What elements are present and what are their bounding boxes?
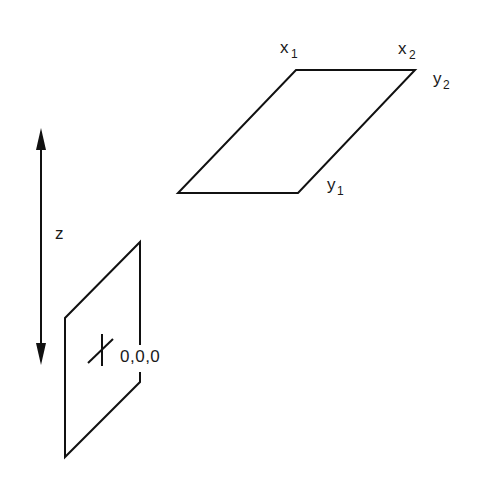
label-x2-base: x (398, 39, 407, 58)
label-y1-sub: 1 (337, 184, 344, 198)
z-axis-arrowhead-bottom-icon (36, 343, 46, 365)
origin-cross-diagonal (88, 339, 113, 363)
label-x1-sub: 1 (291, 47, 298, 61)
target-plane-outline (178, 70, 415, 193)
label-x2: x 2 (398, 39, 416, 62)
z-axis: z (36, 128, 64, 365)
label-x1: x 1 (280, 38, 298, 61)
origin-plane: 0,0,0 (65, 242, 160, 457)
label-y2-sub: 2 (443, 78, 450, 92)
target-plane: x 1 x 2 y 2 y 1 (178, 38, 450, 198)
label-y2-base: y (433, 69, 442, 88)
origin-coordinate-label: 0,0,0 (120, 347, 160, 366)
z-axis-label: z (55, 224, 64, 243)
label-y2: y 2 (433, 69, 450, 92)
label-x2-sub: 2 (409, 48, 416, 62)
z-axis-arrowhead-top-icon (36, 128, 46, 150)
label-x1-base: x (280, 38, 289, 57)
label-y1: y 1 (327, 175, 344, 198)
plane-diagram: z 0,0,0 x 1 x 2 y 2 y 1 (0, 0, 487, 491)
label-y1-base: y (327, 175, 336, 194)
